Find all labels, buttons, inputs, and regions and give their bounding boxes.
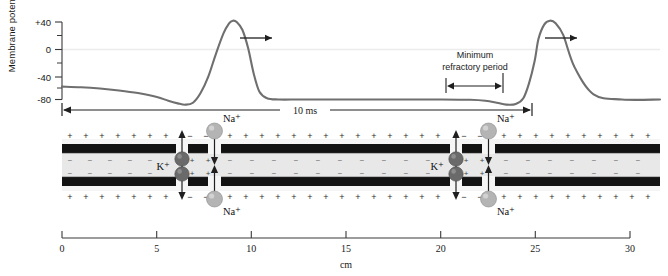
x-axis-unit-label: cm xyxy=(340,259,352,270)
na-label-bottom-left: Na⁺ xyxy=(223,206,241,217)
svg-text:+: + xyxy=(403,131,408,141)
k-ion-upper-left-highlight xyxy=(177,154,182,159)
svg-text:−: − xyxy=(548,156,553,165)
svg-text:−: − xyxy=(68,169,73,178)
svg-text:+: + xyxy=(629,131,634,141)
k-ion-lower-right xyxy=(449,167,463,181)
y-tick-label-neg40: -40 xyxy=(37,72,51,83)
svg-text:+: + xyxy=(613,131,618,141)
svg-text:+: + xyxy=(291,131,296,141)
svg-text:−: − xyxy=(88,156,93,165)
svg-text:−: − xyxy=(228,169,233,178)
svg-text:+: + xyxy=(419,131,424,141)
svg-text:−: − xyxy=(504,156,509,165)
svg-text:+: + xyxy=(597,131,602,141)
svg-text:+: + xyxy=(517,131,522,141)
svg-text:+: + xyxy=(549,192,554,202)
svg-text:+: + xyxy=(259,131,264,141)
svg-text:+: + xyxy=(355,192,360,202)
svg-text:+: + xyxy=(243,192,248,202)
ten-ms-span-annotation: 10 ms xyxy=(62,103,532,116)
upper-membrane-band xyxy=(62,144,660,153)
svg-text:−: − xyxy=(360,169,365,178)
na-ion-bottom-left xyxy=(207,191,223,207)
svg-text:−: − xyxy=(316,156,321,165)
svg-text:−: − xyxy=(404,169,409,178)
svg-text:+: + xyxy=(131,131,136,141)
svg-text:−: − xyxy=(250,169,255,178)
svg-text:−: − xyxy=(404,156,409,165)
svg-text:+: + xyxy=(501,192,506,202)
svg-text:+: + xyxy=(613,192,618,202)
svg-text:−: − xyxy=(360,156,365,165)
svg-text:−: − xyxy=(128,169,133,178)
svg-text:+: + xyxy=(323,192,328,202)
svg-text:+: + xyxy=(435,131,440,141)
svg-text:+: + xyxy=(131,192,136,202)
svg-text:−: − xyxy=(636,169,641,178)
svg-text:+: + xyxy=(307,131,312,141)
y-tick-label-40: +40 xyxy=(35,17,51,28)
svg-text:+: + xyxy=(99,192,104,202)
svg-text:−: − xyxy=(272,169,277,178)
svg-text:+: + xyxy=(115,192,120,202)
svg-text:−: − xyxy=(636,156,641,165)
figure-canvas: +40 0 -40 -80 Minimum refractory period xyxy=(0,0,668,276)
y-tick-label-0: 0 xyxy=(46,44,51,55)
k-ion-upper-left xyxy=(175,152,189,166)
svg-text:−: − xyxy=(570,169,575,178)
svg-text:−: − xyxy=(294,169,299,178)
svg-text:+: + xyxy=(275,131,280,141)
svg-text:+: + xyxy=(163,192,168,202)
svg-text:+: + xyxy=(464,169,469,178)
svg-text:+: + xyxy=(387,192,392,202)
svg-text:−: − xyxy=(526,156,531,165)
x-tick-label-0: 0 xyxy=(60,243,65,254)
axon-diagram-panel: +++ +++ + −− +++ +++ +++ +++ ++ −− +++ +… xyxy=(62,113,660,217)
svg-text:+: + xyxy=(323,131,328,141)
svg-text:+: + xyxy=(291,192,296,202)
svg-text:+: + xyxy=(115,131,120,141)
svg-text:−: − xyxy=(88,169,93,178)
svg-text:−: − xyxy=(461,131,466,141)
svg-text:+: + xyxy=(419,192,424,202)
svg-text:−: − xyxy=(338,169,343,178)
svg-text:+: + xyxy=(549,131,554,141)
x-tick-label-20: 20 xyxy=(436,243,446,254)
svg-text:+: + xyxy=(371,192,376,202)
k-label-left: K⁺ xyxy=(156,161,170,172)
svg-text:+: + xyxy=(387,131,392,141)
svg-text:+: + xyxy=(597,192,602,202)
svg-text:−: − xyxy=(148,169,153,178)
svg-text:+: + xyxy=(480,156,485,165)
svg-text:+: + xyxy=(565,192,570,202)
svg-text:−: − xyxy=(148,156,153,165)
svg-text:+: + xyxy=(275,192,280,202)
svg-text:−: − xyxy=(187,192,192,202)
k-ion-lower-left-highlight xyxy=(177,169,182,174)
svg-text:+: + xyxy=(163,131,168,141)
na-ion-bottom-right-highlight xyxy=(483,193,488,198)
x-tick-label-25: 25 xyxy=(530,243,540,254)
svg-text:−: − xyxy=(382,169,387,178)
svg-text:+: + xyxy=(517,192,522,202)
svg-text:+: + xyxy=(83,131,88,141)
svg-text:+: + xyxy=(464,156,469,165)
k-ion-upper-right xyxy=(449,152,463,166)
na-ion-bottom-right xyxy=(481,191,497,207)
svg-text:+: + xyxy=(581,131,586,141)
svg-text:−: − xyxy=(316,169,321,178)
svg-text:+: + xyxy=(501,131,506,141)
svg-text:−: − xyxy=(108,169,113,178)
svg-text:+: + xyxy=(565,131,570,141)
outer-charges-bottom: +++ +++ + −− +++ +++ +++ +++ ++ −− +++ +… xyxy=(67,192,650,202)
svg-text:+: + xyxy=(67,131,72,141)
svg-text:−: − xyxy=(228,156,233,165)
svg-text:+: + xyxy=(403,192,408,202)
svg-text:+: + xyxy=(259,192,264,202)
svg-text:+: + xyxy=(533,192,538,202)
k-ion-lower-right-highlight xyxy=(451,169,456,174)
refractory-label-line1: Minimum xyxy=(457,50,494,60)
k-ion-lower-left xyxy=(175,167,189,181)
svg-text:+: + xyxy=(227,192,232,202)
